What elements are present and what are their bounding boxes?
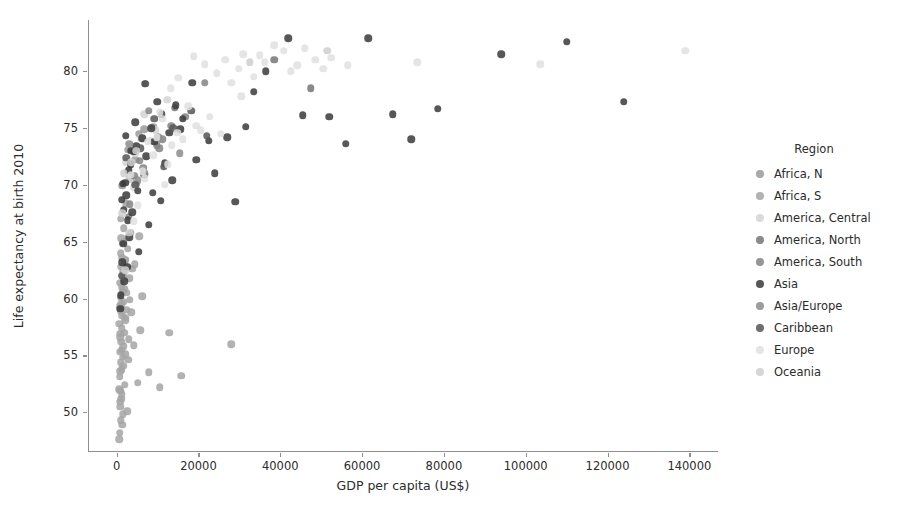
legend-marker-icon (756, 302, 764, 310)
data-point (179, 115, 187, 123)
plot-area (88, 20, 718, 452)
legend-swatch-wrap (746, 236, 774, 244)
data-point (131, 181, 139, 189)
data-point (280, 47, 288, 55)
y-tick-mark (83, 71, 87, 72)
data-point (682, 47, 690, 55)
data-point (122, 314, 130, 322)
legend-entry[interactable]: Oceania (746, 361, 916, 383)
data-point (126, 296, 134, 304)
data-point (261, 58, 269, 66)
data-point (201, 79, 209, 87)
x-tick-label: 0 (113, 459, 120, 473)
data-point (221, 56, 229, 64)
x-tick-mark (526, 453, 527, 457)
legend-marker-icon (756, 324, 764, 332)
data-point (135, 232, 143, 240)
data-point (149, 152, 157, 160)
data-point (120, 170, 128, 178)
data-point (117, 249, 125, 257)
data-point (130, 217, 138, 225)
legend-swatch-wrap (746, 258, 774, 266)
legend-entry[interactable]: America, Central (746, 207, 916, 229)
data-point (153, 98, 161, 106)
scatter-chart-figure: 0200004000060000800001000001200001400005… (0, 0, 923, 524)
legend-entries: Africa, NAfrica, SAmerica, CentralAmeric… (746, 163, 916, 383)
data-point (206, 113, 214, 121)
data-point (145, 221, 153, 229)
legend-swatch-wrap (746, 192, 774, 200)
x-axis-label: GDP per capita (US$) (88, 478, 718, 493)
data-point (342, 140, 350, 148)
data-point (145, 369, 153, 377)
legend-title: Region (748, 142, 880, 156)
data-point (270, 41, 278, 49)
x-tick-label: 20000 (180, 459, 217, 473)
legend-entry[interactable]: Europe (746, 339, 916, 361)
data-point (145, 107, 153, 115)
data-point (167, 84, 175, 92)
data-point (116, 305, 124, 313)
data-point (142, 80, 150, 88)
y-tick-mark (83, 355, 87, 356)
x-tick-mark (689, 453, 690, 457)
legend-marker-icon (756, 368, 764, 376)
data-point (134, 379, 142, 387)
data-point (157, 197, 165, 205)
data-point (311, 56, 319, 64)
data-point (126, 140, 134, 148)
data-point (184, 103, 192, 111)
legend-label: Africa, S (774, 189, 821, 203)
legend-entry[interactable]: Asia/Europe (746, 295, 916, 317)
data-point (178, 372, 186, 380)
data-point (389, 111, 397, 119)
data-point (620, 98, 628, 106)
legend-label: Caribbean (774, 321, 833, 335)
legend-entry[interactable]: America, South (746, 251, 916, 273)
legend-entry[interactable]: Caribbean (746, 317, 916, 339)
data-point (262, 67, 270, 75)
data-point (190, 53, 198, 61)
data-point (294, 62, 302, 70)
data-point (217, 130, 225, 138)
x-tick-mark (198, 453, 199, 457)
legend-label: America, North (774, 233, 861, 247)
legend-entry[interactable]: Asia (746, 273, 916, 295)
data-point (122, 132, 130, 140)
data-point (141, 174, 149, 182)
data-point (326, 113, 334, 121)
data-point (301, 45, 309, 53)
x-tick-label: 60000 (344, 459, 381, 473)
data-point (250, 73, 258, 81)
legend-swatch-wrap (746, 214, 774, 222)
data-point (149, 189, 157, 197)
data-point (193, 156, 201, 164)
data-point (238, 92, 246, 100)
data-point (563, 38, 571, 46)
data-point (324, 47, 332, 55)
y-tick-mark (83, 299, 87, 300)
data-point (211, 170, 219, 178)
data-point (536, 61, 544, 69)
data-point (227, 79, 235, 87)
y-tick-mark (83, 242, 87, 243)
legend-marker-icon (756, 214, 764, 222)
legend-entry[interactable]: Africa, S (746, 185, 916, 207)
legend-marker-icon (756, 258, 764, 266)
legend-swatch-wrap (746, 324, 774, 332)
legend-entry[interactable]: America, North (746, 229, 916, 251)
data-point (299, 112, 307, 120)
data-point (232, 198, 240, 206)
data-point (133, 147, 141, 155)
data-point (118, 346, 126, 354)
data-point (172, 102, 180, 110)
data-point (235, 65, 243, 73)
data-point (134, 202, 142, 210)
data-point (165, 329, 173, 337)
legend-entry[interactable]: Africa, N (746, 163, 916, 185)
legend-marker-icon (756, 346, 764, 354)
legend-swatch-wrap (746, 302, 774, 310)
y-tick-mark (83, 412, 87, 413)
x-tick-mark (608, 453, 609, 457)
data-point (213, 70, 221, 78)
